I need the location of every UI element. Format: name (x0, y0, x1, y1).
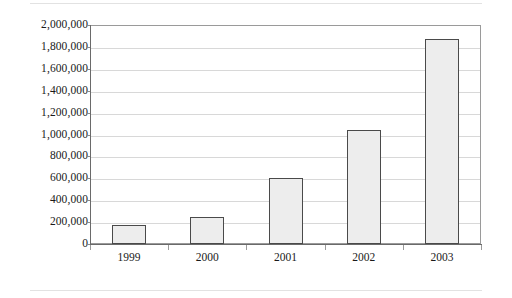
bottom-divider-rule (30, 290, 482, 291)
y-axis-tick-label: 600,000 (4, 172, 88, 184)
y-axis-tick-label: 1,800,000 (4, 41, 88, 53)
x-axis-tick-mark (246, 245, 247, 250)
bar-1999 (112, 225, 146, 244)
gridline (91, 114, 480, 115)
gridline (91, 92, 480, 93)
y-axis-tick-label: 1,000,000 (4, 129, 88, 141)
y-axis-tick-label: 2,000,000 (4, 19, 88, 31)
x-axis-tick-mark (168, 245, 169, 250)
y-axis-tick-mark (86, 47, 90, 48)
top-divider-rule (30, 3, 482, 4)
gridline (91, 157, 480, 158)
y-axis-tick-mark (86, 200, 90, 201)
x-axis-tick-mark (481, 245, 482, 250)
y-axis-tick-mark (86, 91, 90, 92)
x-axis-tick-mark (403, 245, 404, 250)
y-axis-tick-mark (86, 178, 90, 179)
x-axis-tick-mark (325, 245, 326, 250)
bar-2001 (269, 178, 303, 244)
x-axis-tick-label: 1999 (89, 251, 169, 264)
y-axis-tick-label: 0 (4, 238, 88, 250)
y-axis-tick-mark (86, 25, 90, 26)
x-axis-tick-label: 2000 (167, 251, 247, 264)
x-axis-tick-label: 2003 (402, 251, 482, 264)
y-axis-tick-mark (86, 135, 90, 136)
y-axis-tick-mark (86, 69, 90, 70)
y-axis-line (90, 25, 91, 245)
y-axis-tick-label: 800,000 (4, 150, 88, 162)
y-axis-tick-mark (86, 156, 90, 157)
x-axis-tick-mark (90, 245, 91, 250)
y-axis-tick-mark (86, 222, 90, 223)
gridline (91, 136, 480, 137)
gridline (91, 48, 480, 49)
x-axis-tick-label: 2002 (324, 251, 404, 264)
x-axis-tick-label: 2001 (246, 251, 326, 264)
x-axis-line (90, 244, 482, 245)
bar-2000 (190, 217, 224, 244)
y-axis-tick-label: 1,200,000 (4, 107, 88, 119)
y-axis-tick-label: 200,000 (4, 216, 88, 228)
y-axis-tick-labels: 2,000,0001,800,0001,600,0001,400,0001,20… (0, 0, 88, 298)
bar-chart-figure: 2,000,0001,800,0001,600,0001,400,0001,20… (0, 0, 512, 298)
gridline (91, 70, 480, 71)
bar-2002 (347, 130, 381, 244)
y-axis-tick-label: 1,600,000 (4, 63, 88, 75)
y-axis-tick-label: 1,400,000 (4, 85, 88, 97)
y-axis-tick-label: 400,000 (4, 194, 88, 206)
y-axis-tick-mark (86, 113, 90, 114)
bar-2003 (425, 39, 459, 244)
